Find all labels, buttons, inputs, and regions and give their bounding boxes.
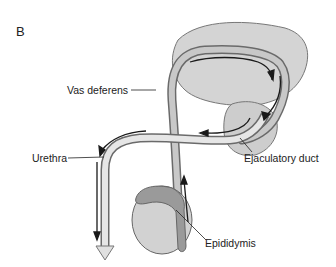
male-reproductive-tract-diagram	[0, 0, 336, 267]
diagram-figure: B Vas deferens Urethra Ejaculatory duct …	[0, 0, 336, 267]
leader-urethra	[68, 157, 104, 158]
panel-letter: B	[16, 24, 25, 39]
label-vas-deferens: Vas deferens	[67, 84, 128, 96]
label-ejaculatory-duct: Ejaculatory duct	[244, 152, 319, 164]
label-epididymis: Epididymis	[205, 237, 256, 249]
label-urethra: Urethra	[32, 152, 67, 164]
urethra-outlet-arrowhead	[96, 246, 114, 260]
